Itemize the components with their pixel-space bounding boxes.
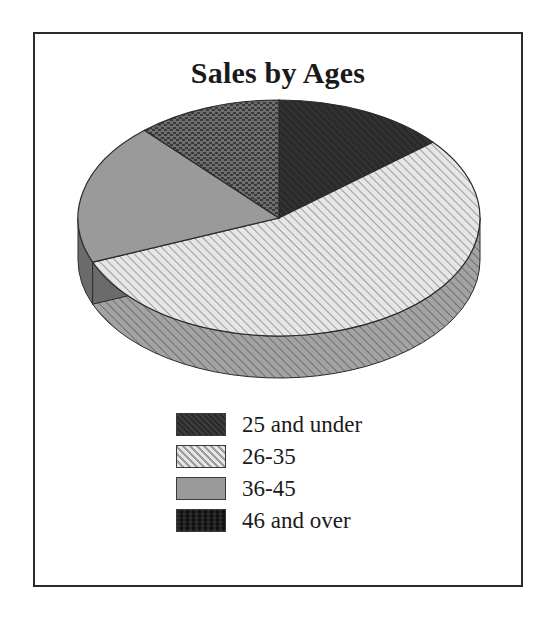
legend-label-26-35: 26-35 — [242, 445, 296, 468]
legend-swatch-25-and-under — [176, 413, 226, 436]
chart-legend: 25 and under 26-35 36-45 46 and over — [176, 408, 496, 536]
legend-swatch-46-and-over — [176, 509, 226, 532]
legend-item-46-and-over[interactable]: 46 and over — [176, 504, 496, 536]
page-title: Sales by Ages — [35, 56, 521, 90]
legend-label-36-45: 36-45 — [242, 477, 296, 500]
legend-swatch-26-35 — [176, 445, 226, 468]
legend-item-26-35[interactable]: 26-35 — [176, 440, 496, 472]
pie-chart-svg — [35, 96, 525, 396]
legend-item-36-45[interactable]: 36-45 — [176, 472, 496, 504]
legend-label-46-and-over: 46 and over — [242, 509, 351, 532]
pie-chart — [35, 96, 525, 396]
legend-item-25-and-under[interactable]: 25 and under — [176, 408, 496, 440]
legend-swatch-36-45 — [176, 477, 226, 500]
chart-figure-frame: Sales by Ages — [33, 32, 523, 587]
legend-label-25-and-under: 25 and under — [242, 413, 362, 436]
